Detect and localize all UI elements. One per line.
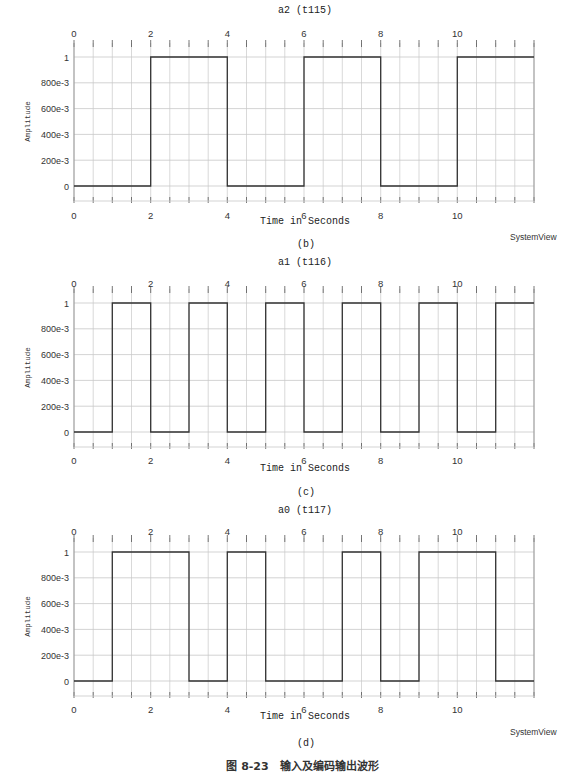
plot-a0: 0200e-3400e-3600e-3800e-3100224466881010…: [24, 526, 534, 715]
y-tick-label: 0: [64, 182, 69, 192]
y-tick-label: 600e-3: [41, 350, 69, 360]
figure-caption: 图 8-23 输入及编码输出波形: [0, 757, 575, 773]
y-axis-label: Amplitude: [24, 596, 32, 637]
x-tick-label: 10: [452, 526, 463, 537]
x-tick-label: 4: [225, 526, 230, 537]
x-tick-label: 4: [225, 28, 230, 39]
subfigure-label-c: (c): [0, 487, 575, 498]
x-tick-label: 8: [378, 278, 383, 289]
subfigure-label-d: (d): [0, 738, 575, 749]
x-axis-label-a1: Time in Seconds: [0, 463, 575, 474]
y-tick-label: 600e-3: [41, 104, 69, 114]
y-tick-label: 1: [64, 53, 69, 63]
x-tick-label: 0: [71, 278, 76, 289]
x-tick-label: 4: [225, 278, 230, 289]
x-tick-label: 10: [452, 28, 463, 39]
x-tick-label: 8: [378, 526, 383, 537]
systemview-brand-d: SystemView: [510, 727, 557, 737]
plot-title-a1: a1 (t116): [0, 257, 575, 268]
y-axis-label: Amplitude: [24, 101, 32, 142]
y-axis-label: Amplitude: [24, 347, 32, 388]
y-tick-label: 800e-3: [41, 573, 69, 583]
x-tick-label: 0: [71, 28, 76, 39]
y-tick-label: 200e-3: [41, 651, 69, 661]
y-tick-label: 800e-3: [41, 324, 69, 334]
y-tick-label: 400e-3: [41, 625, 69, 635]
y-tick-label: 0: [64, 677, 69, 687]
waveform-plots: 0200e-3400e-3600e-3800e-3100224466881010…: [0, 0, 575, 781]
x-tick-label: 10: [452, 278, 463, 289]
y-tick-label: 200e-3: [41, 402, 69, 412]
y-tick-label: 600e-3: [41, 599, 69, 609]
plot-title-a0: a0 (t117): [0, 505, 575, 516]
plot-a2: 0200e-3400e-3600e-3800e-3100224466881010…: [24, 28, 534, 221]
y-tick-label: 800e-3: [41, 78, 69, 88]
y-tick-label: 400e-3: [41, 130, 69, 140]
subfigure-label-b: (b): [0, 239, 575, 250]
x-tick-label: 6: [301, 278, 306, 289]
x-tick-label: 8: [378, 28, 383, 39]
y-tick-label: 0: [64, 428, 69, 438]
plot-title-a2: a2 (t115): [0, 5, 575, 16]
y-tick-label: 1: [64, 548, 69, 558]
x-tick-label: 2: [148, 526, 153, 537]
x-tick-label: 6: [301, 526, 306, 537]
y-tick-label: 200e-3: [41, 156, 69, 166]
waveform-trace: [74, 57, 534, 186]
waveform-trace: [74, 303, 534, 432]
x-axis-label-a2: Time in Seconds: [0, 216, 575, 227]
plot-a1: 0200e-3400e-3600e-3800e-3100224466881010…: [24, 278, 534, 466]
x-tick-label: 0: [71, 526, 76, 537]
x-tick-label: 2: [148, 28, 153, 39]
x-tick-label: 6: [301, 28, 306, 39]
x-axis-label-a0: Time in Seconds: [0, 711, 575, 722]
y-tick-label: 1: [64, 299, 69, 309]
y-tick-label: 400e-3: [41, 376, 69, 386]
x-tick-label: 2: [148, 278, 153, 289]
